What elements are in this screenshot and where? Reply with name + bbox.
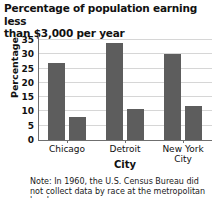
x-tick-label-line: New York	[162, 144, 203, 154]
x-tick-mark	[125, 140, 126, 143]
gridline	[38, 53, 212, 54]
bar	[127, 109, 144, 140]
x-tick-label: Chicago	[49, 144, 85, 154]
bar	[106, 43, 123, 140]
y-axis-title: Percentage	[9, 36, 20, 100]
chart-note: Note: In 1960, the U.S. Census Bureau di…	[30, 177, 210, 198]
x-tick-label-line: Chicago	[49, 144, 85, 154]
y-tick-label: 25	[21, 64, 34, 74]
x-tick-mark	[183, 140, 184, 143]
plot-inner	[38, 40, 212, 140]
chart-figure: Percentage of population earning less th…	[0, 0, 218, 198]
bar	[69, 117, 86, 140]
x-tick-mark	[67, 140, 68, 143]
y-axis-line	[38, 36, 39, 140]
y-tick-label: 0	[28, 135, 34, 145]
y-tick-label: 20	[21, 78, 34, 88]
chart-title: Percentage of population earning less th…	[4, 2, 214, 40]
plot-area: 05101520253035 ChicagoDetroitNew YorkCit…	[38, 40, 212, 140]
x-tick-label: Detroit	[109, 144, 140, 154]
y-tick-label: 5	[28, 121, 34, 131]
y-tick-label: 30	[21, 49, 34, 59]
x-axis-title: City	[38, 159, 212, 170]
bar	[185, 106, 202, 140]
bar	[164, 54, 181, 140]
gridline	[38, 39, 212, 40]
chart-title-line-1: Percentage of population earning less	[4, 2, 197, 27]
x-tick-label-line: Detroit	[109, 144, 140, 154]
y-tick-label: 15	[21, 92, 34, 102]
bar	[48, 63, 65, 140]
y-tick-label: 10	[21, 106, 34, 116]
y-tick-label: 35	[21, 35, 34, 45]
